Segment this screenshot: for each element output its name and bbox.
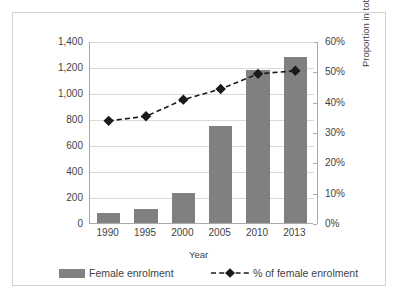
x-axis-tick-label: 1995: [125, 228, 165, 238]
legend-bar-swatch: [59, 269, 85, 278]
y-axis-right-title: Proportion in total: [360, 0, 371, 67]
x-axis-tick-label: 2013: [274, 228, 314, 238]
y-axis-left-tick-label: 200: [39, 193, 83, 203]
y-axis-right-tick-label: 0%: [325, 219, 359, 229]
right-axis-line: [317, 42, 318, 224]
plot-area: [89, 42, 313, 224]
y-axis-right-tick-label: 30%: [325, 128, 359, 138]
y-axis-left-tick-label: 1,400: [39, 37, 83, 47]
x-axis-tick-label: 2005: [200, 228, 240, 238]
y-axis-left-tick-label: 0: [39, 219, 83, 229]
y-axis-left-tick-label: 600: [39, 141, 83, 151]
line-series: [90, 42, 314, 224]
y-axis-right-tick-label: 10%: [325, 189, 359, 199]
y-axis-right-tick-label: 40%: [325, 98, 359, 108]
x-axis-tick-label: 2000: [162, 228, 202, 238]
y-axis-left-tick-label: 400: [39, 167, 83, 177]
line-markers: [103, 66, 300, 126]
y-axis-right-tick-label: 50%: [325, 67, 359, 77]
chart-frame: Enrolment (ten thousand) Proportion in t…: [12, 12, 386, 286]
line-path: [109, 71, 296, 121]
y-axis-left-tick-label: 800: [39, 115, 83, 125]
legend: Female enrolment % of female enrolment: [13, 265, 387, 283]
right-axis-tickmark: [313, 224, 317, 225]
line-marker: [178, 94, 188, 104]
line-marker: [215, 84, 225, 94]
y-axis-right-tick-label: 60%: [325, 37, 359, 47]
x-axis-tick-label: 2010: [237, 228, 277, 238]
y-axis-right-tick-label: 20%: [325, 158, 359, 168]
line-marker: [103, 116, 113, 126]
x-axis-title: Year: [189, 249, 208, 260]
x-axis-tick-label: 1990: [88, 228, 128, 238]
line-marker: [253, 69, 263, 79]
legend-line-glyph: [211, 267, 249, 279]
line-marker: [290, 66, 300, 76]
y-axis-left-tick-label: 1,200: [39, 63, 83, 73]
legend-line-label: % of female enrolment: [253, 267, 358, 279]
legend-bar-label: Female enrolment: [89, 267, 174, 279]
line-marker: [141, 111, 151, 121]
y-axis-left-tick-label: 1,000: [39, 89, 83, 99]
